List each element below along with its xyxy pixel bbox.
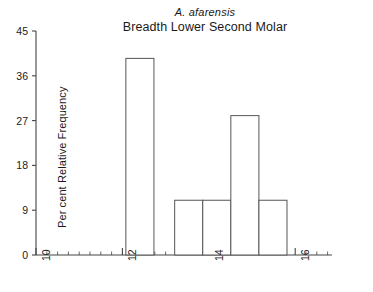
histogram-figure: A. afarensis Breadth Lower Second Molar … (0, 0, 373, 292)
bars-group (126, 58, 287, 255)
y-tick-label: 36 (2, 71, 28, 82)
y-tick-label: 45 (2, 26, 28, 37)
x-tick-label: 10 (41, 249, 52, 261)
x-tick-label: 16 (300, 249, 311, 261)
histogram-bar (203, 200, 231, 255)
x-tick-label: 12 (127, 249, 138, 261)
x-tick-label: 14 (214, 249, 225, 261)
histogram-bar (175, 200, 203, 255)
histogram-bar (231, 116, 259, 255)
y-tick-label: 9 (2, 205, 28, 216)
y-tick-label: 18 (2, 160, 28, 171)
y-tick-label: 0 (2, 250, 28, 261)
histogram-bar (126, 58, 154, 255)
y-tick-label: 27 (2, 116, 28, 127)
histogram-bar (259, 200, 287, 255)
y-axis-label: Per cent Relative Frequency (56, 87, 68, 229)
